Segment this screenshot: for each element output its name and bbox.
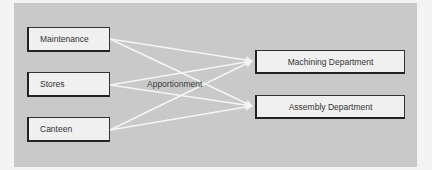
edge-label-apportionment: Apportionment	[147, 79, 202, 89]
target-box-machining: Machining Department	[255, 50, 405, 74]
target-label: Machining Department	[288, 57, 374, 67]
source-box-stores: Stores	[27, 72, 110, 97]
source-label: Stores	[40, 79, 65, 89]
target-label: Assembly Department	[289, 102, 373, 112]
arrow-maintenance-machining	[110, 39, 252, 61]
target-box-assembly: Assembly Department	[255, 95, 405, 119]
arrow-canteen-assembly	[110, 106, 252, 130]
source-box-maintenance: Maintenance	[27, 27, 110, 52]
source-label: Maintenance	[40, 34, 89, 44]
source-box-canteen: Canteen	[27, 117, 110, 142]
source-label: Canteen	[40, 124, 72, 134]
